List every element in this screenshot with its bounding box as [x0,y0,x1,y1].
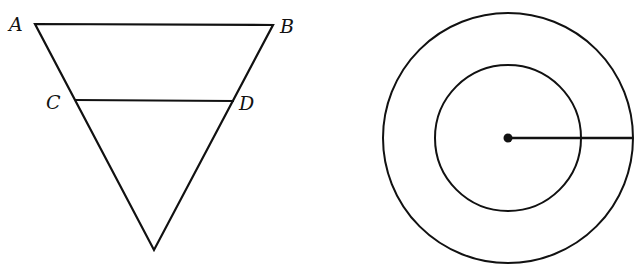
label-c: C [46,91,61,113]
label-a: A [7,13,23,35]
inverted-triangle [35,24,273,250]
label-d: D [238,92,254,114]
segment-cd [75,100,234,101]
diagram-svg: A B C D [0,0,637,264]
triangle-figure [35,24,273,250]
label-b: B [279,15,294,37]
diagram-canvas: A B C D [0,0,637,264]
center-point [504,134,513,143]
